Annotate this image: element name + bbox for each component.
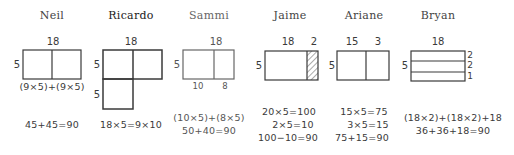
jaime-rectangle: [265, 51, 318, 80]
jaime-top-label-1: 18: [282, 36, 295, 48]
sammi-bottom-label-1: 10: [193, 80, 204, 92]
student-name-sammi: Sammi: [189, 10, 229, 22]
student-name-bryan: Bryan: [421, 10, 456, 22]
neil-formula-2: 45+45=90: [25, 119, 79, 131]
neil-top-label: 18: [47, 36, 60, 48]
ricardo-formula-1: 18×5=9×10: [100, 119, 162, 131]
bryan-formula-1: (18×2)+(18×2)+18: [404, 112, 502, 124]
ariane-top-label-2: 3: [375, 36, 381, 48]
student-name-jaime: Jaime: [274, 10, 307, 22]
ricardo-rectangle: [103, 50, 162, 109]
sammi-top-label: 18: [210, 36, 223, 48]
jaime-top-label-2: 2: [311, 36, 317, 48]
student-name-ariane: Ariane: [345, 10, 384, 22]
jaime-formula-3: 100−10=90: [258, 132, 318, 144]
neil-formula-1: (9×5)+(9×5): [19, 81, 84, 93]
bryan-right-label-1: 2: [467, 50, 473, 60]
ricardo-top-label: 18: [125, 36, 138, 48]
bryan-top-label: 18: [432, 36, 445, 48]
student-name-neil: Neil: [40, 10, 64, 22]
ariane-rectangle: [337, 51, 389, 80]
bryan-right-label-2: 2: [467, 60, 473, 70]
sammi-bottom-label-2: 8: [222, 80, 227, 92]
neil-rectangle: [23, 50, 81, 79]
ariane-side-label: 5: [329, 60, 335, 72]
student-name-ricardo: Ricardo: [108, 10, 154, 22]
ariane-formula-1: 15×5=75: [340, 106, 388, 118]
bryan-right-label-3: 1: [467, 71, 473, 81]
ariane-formula-2: 3×5=15: [347, 119, 388, 131]
sammi-side-label: 5: [174, 59, 180, 71]
bryan-rectangle: [411, 51, 465, 81]
ricardo-side-label-1: 5: [94, 59, 100, 71]
ariane-top-label-1: 15: [346, 36, 359, 48]
jaime-formula-2: 2×5=10: [272, 119, 313, 131]
ariane-formula-3: 75+15=90: [335, 132, 389, 144]
jaime-formula-1: 20×5=100: [262, 106, 316, 118]
ricardo-side-label-2: 5: [94, 89, 100, 101]
sammi-formula-2: 50+40=90: [182, 125, 236, 137]
bryan-side-label: 5: [402, 60, 408, 72]
neil-side-label: 5: [14, 59, 20, 71]
bryan-formula-2: 36+36+18=90: [416, 125, 490, 137]
sammi-formula-1: (10×5)+(8×5): [173, 112, 244, 124]
jaime-side-label: 5: [256, 60, 262, 72]
sammi-rectangle: [183, 50, 234, 79]
